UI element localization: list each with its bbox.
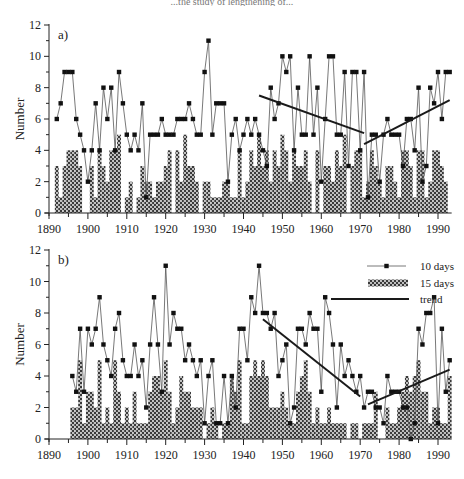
legend-item-trend: trend [331, 293, 443, 305]
square-marker [284, 70, 288, 74]
x-tick-label: 1950 [270, 222, 294, 236]
bar [296, 166, 300, 213]
bar [214, 197, 218, 213]
bar [350, 423, 354, 439]
square-marker [424, 164, 428, 168]
square-marker [152, 295, 156, 299]
bar [280, 135, 284, 213]
square-marker [136, 374, 140, 378]
square-marker [300, 327, 304, 331]
bar [323, 423, 327, 439]
bar [444, 182, 448, 213]
bar [358, 150, 362, 213]
bar [140, 166, 144, 213]
bar [129, 423, 133, 439]
bar [183, 135, 187, 213]
x-tick-label: 1920 [154, 448, 178, 462]
square-marker [128, 148, 132, 152]
y-tick-label: 12 [29, 18, 41, 32]
bar [273, 408, 277, 440]
bar [238, 360, 242, 439]
bar [253, 360, 257, 439]
square-marker [261, 311, 265, 315]
square-marker [424, 311, 428, 315]
square-marker [245, 117, 249, 121]
y-tick-label: 0 [35, 432, 41, 446]
square-marker [358, 374, 362, 378]
square-marker [280, 358, 284, 362]
square-marker [222, 101, 226, 105]
bar [137, 423, 141, 439]
bar [129, 182, 133, 213]
square-marker [416, 327, 420, 331]
bar [78, 360, 82, 439]
bar [90, 166, 94, 213]
square-marker [401, 405, 405, 409]
bar [199, 408, 203, 440]
bar [222, 423, 226, 439]
square-marker [226, 179, 230, 183]
square-marker [300, 132, 304, 136]
square-marker [241, 327, 245, 331]
square-marker [385, 117, 389, 121]
bar [440, 423, 444, 439]
bar [94, 197, 98, 213]
legend-label: trend [420, 293, 443, 305]
legend-label: 15 days [420, 277, 454, 289]
square-marker [362, 70, 366, 74]
bar [339, 423, 343, 439]
square-marker [191, 117, 195, 121]
square-marker [105, 117, 109, 121]
bar [234, 197, 238, 213]
bar [203, 182, 207, 213]
square-marker [377, 405, 381, 409]
square-marker [237, 148, 241, 152]
bar [82, 423, 86, 439]
bar [393, 182, 397, 213]
square-marker [86, 327, 90, 331]
bar [74, 150, 78, 213]
bar [67, 150, 71, 213]
square-marker [307, 311, 311, 315]
bar [315, 150, 319, 213]
y-tick-label: 4 [35, 369, 41, 383]
square-marker [292, 148, 296, 152]
figure: 0246810121890190019101920193019401950196… [0, 0, 464, 479]
x-tick-label: 1960 [309, 448, 333, 462]
bar [269, 182, 273, 213]
square-marker [179, 117, 183, 121]
legend-item-10-days: 10 days [367, 260, 454, 272]
bar [226, 423, 230, 439]
square-marker [416, 85, 420, 89]
bar [374, 166, 378, 213]
x-tick-label: 1900 [76, 448, 100, 462]
bar [413, 197, 417, 213]
square-marker [55, 117, 59, 121]
square-marker [144, 195, 148, 199]
bar [397, 197, 401, 213]
bar [385, 408, 389, 440]
square-marker [269, 85, 273, 89]
square-marker [436, 70, 440, 74]
bar [304, 360, 308, 439]
square-marker [202, 70, 206, 74]
y-axis-label: Number [12, 323, 27, 366]
bar [144, 423, 148, 439]
square-marker [113, 148, 117, 152]
square-marker [226, 421, 230, 425]
bar [74, 408, 78, 440]
square-marker [292, 405, 296, 409]
square-marker [128, 374, 132, 378]
bar [187, 166, 191, 213]
square-marker [199, 132, 203, 136]
square-marker [389, 132, 393, 136]
bar [292, 423, 296, 439]
square-marker [175, 327, 179, 331]
square-marker [342, 374, 346, 378]
square-marker [210, 358, 214, 362]
bar [172, 423, 176, 439]
square-marker [335, 405, 339, 409]
bar [354, 423, 358, 439]
x-tick-label: 1890 [37, 222, 61, 236]
bar [117, 392, 121, 439]
